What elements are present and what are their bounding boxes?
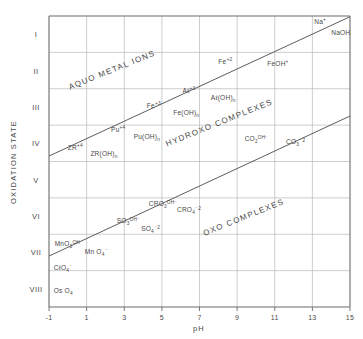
species-label: ZR(OH)n	[90, 150, 117, 159]
x-tick-label: 5	[160, 314, 164, 321]
x-tick-label: 3	[122, 314, 126, 321]
y-tick-label: VII	[31, 248, 41, 257]
species-label: FeOH+	[267, 59, 288, 67]
y-tick-label: VI	[32, 212, 40, 221]
x-tick-label: 1	[85, 314, 89, 321]
species-label: Fe(OH)n	[173, 109, 199, 118]
species-label: Fe+3	[147, 101, 161, 109]
species-label: Pu(OH)n	[134, 133, 161, 142]
species-label: Aℓ+3	[183, 86, 196, 94]
oxidation-state-ph-diagram: AQUO METAL IONSHYDROXO COMPLEXESOXO COMP…	[0, 0, 363, 339]
species-label: CℓO4⁻	[54, 264, 73, 273]
y-tick-label: V	[33, 176, 38, 185]
grid-layer	[49, 16, 350, 307]
species-label: Na+	[314, 17, 326, 25]
species-label: Fe+2	[218, 57, 232, 65]
x-tick-label: 9	[235, 314, 239, 321]
species-label: Pu+4	[111, 125, 125, 133]
y-axis-title: OXIDATION STATE	[9, 120, 18, 204]
species-label: Mn O4⁻	[85, 248, 108, 257]
tick-label-layer: -113579111315IIIIIIIVVVIVIIVIII	[30, 30, 355, 321]
region-label: OXO COMPLEXES	[202, 197, 286, 238]
x-tick-label: 7	[197, 314, 201, 321]
y-tick-label: III	[32, 103, 39, 112]
x-tick-label: 15	[346, 314, 354, 321]
x-tick-label: 13	[308, 314, 316, 321]
y-tick-label: VIII	[30, 285, 43, 294]
x-tick-label: 11	[271, 314, 279, 321]
species-label: CO3⁻2	[286, 138, 305, 147]
species-label: Os O4	[54, 287, 73, 296]
species-label: ZR+4	[68, 143, 83, 151]
x-axis-title: pH	[193, 324, 205, 333]
region-label: AQUO METAL IONS	[67, 49, 156, 92]
y-tick-label: II	[34, 67, 39, 76]
species-label: CRO4⁻2	[177, 206, 201, 215]
chart-svg: AQUO METAL IONSHYDROXO COMPLEXESOXO COMP…	[0, 0, 363, 339]
x-tick-label: -1	[46, 314, 53, 321]
species-layer: Na+NaOHFe+2FeOH+Aℓ+3Aℓ(OH)nFe+3Fe(OH)nPu…	[54, 17, 351, 296]
species-label: Aℓ(OH)n	[211, 94, 236, 103]
y-tick-label: I	[35, 30, 37, 39]
species-label: CO2OH⁻	[245, 135, 269, 144]
y-tick-label: IV	[32, 139, 40, 148]
species-label: SO4⁻2	[141, 225, 160, 234]
species-label: NaOH	[331, 29, 350, 36]
